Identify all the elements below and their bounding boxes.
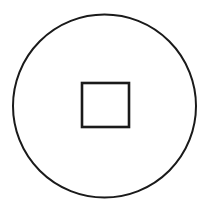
- inner-square: [82, 83, 129, 127]
- figure-canvas: Circle with centered square: [0, 0, 210, 208]
- figure-svg: Circle with centered square: [0, 0, 210, 208]
